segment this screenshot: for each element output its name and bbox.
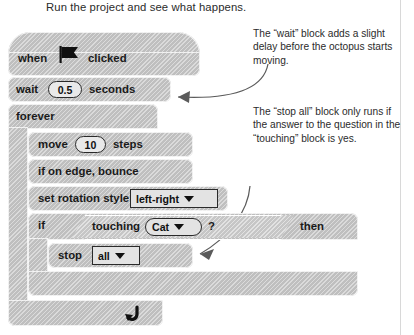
clicked-label: clicked: [88, 53, 127, 64]
block-if-then-spine: [28, 238, 48, 273]
question-mark-label: ?: [208, 221, 215, 232]
rotation-style-value: left-right: [136, 193, 179, 205]
move-label: move: [38, 139, 68, 150]
page-root: Run the project and see what happens. Th…: [0, 0, 414, 335]
chevron-down-icon: [184, 196, 194, 202]
steps-label: steps: [113, 139, 143, 150]
touching-target-value: Cat: [152, 221, 169, 233]
forever-label: forever: [16, 111, 55, 122]
set-rotation-style-label: set rotation style: [38, 193, 129, 204]
scratch-script: when clicked wait 0.5 seconds forever mo…: [0, 28, 370, 328]
green-flag-icon: [58, 45, 80, 64]
loop-arrow-icon: [122, 305, 142, 323]
stop-option-dropdown[interactable]: all: [92, 246, 140, 265]
when-label: when: [18, 53, 47, 64]
wait-label: wait: [16, 84, 38, 95]
block-if-then-footer: [28, 271, 358, 296]
bounce-label: if on edge, bounce: [38, 166, 139, 177]
then-label: then: [300, 221, 324, 232]
seconds-label: seconds: [89, 84, 135, 95]
touching-target-dropdown[interactable]: Cat: [145, 218, 202, 236]
stop-option-value: all: [98, 250, 110, 262]
rotation-style-dropdown[interactable]: left-right: [130, 189, 218, 208]
chevron-down-icon: [115, 253, 125, 259]
wait-seconds-input[interactable]: 0.5: [48, 81, 82, 98]
chevron-down-icon: [174, 224, 184, 230]
stop-label: stop: [58, 250, 82, 261]
page-heading: Run the project and see what happens.: [46, 1, 246, 13]
block-forever-spine: [8, 127, 28, 305]
move-steps-input[interactable]: 10: [75, 136, 106, 153]
touching-label: touching: [92, 221, 140, 232]
if-label: if: [38, 220, 45, 231]
